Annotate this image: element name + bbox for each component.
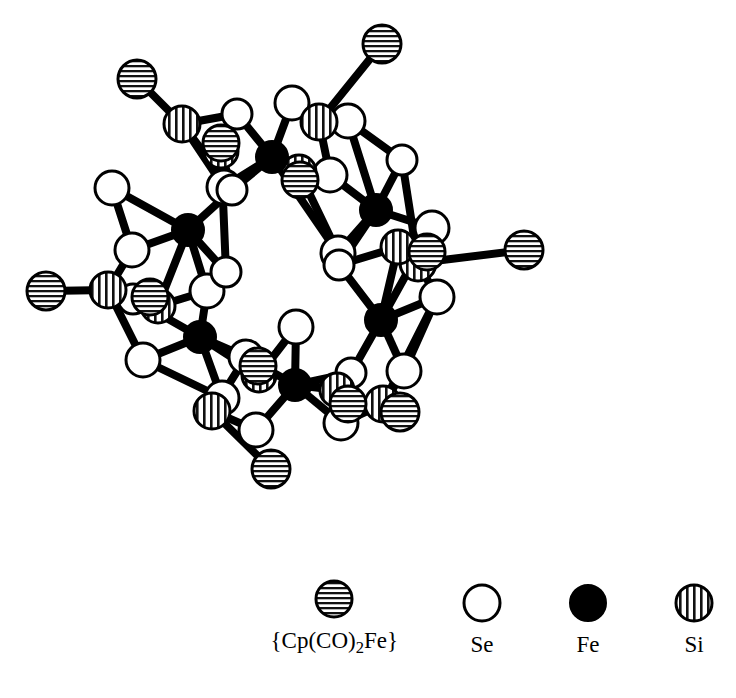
legend-label-si: Si [684, 633, 703, 656]
atom-cpco2fe [132, 279, 168, 315]
atom-se [420, 280, 454, 314]
filled-circle-icon [566, 579, 610, 627]
molecular-structure-figure: {Cp(CO)2Fe}SeFeSi [0, 0, 736, 698]
open-circle-icon [460, 579, 504, 627]
legend-label-se: Se [471, 633, 494, 656]
molecule-canvas [0, 0, 736, 576]
legend-item-fe: Fe [566, 579, 610, 656]
atom-cpco2fe [27, 272, 65, 310]
vertical-striped-circle-icon [672, 579, 716, 627]
legend-item-cp-co-2-fe: {Cp(CO)2Fe} [271, 575, 398, 656]
atom-si [90, 272, 126, 308]
horizontal-striped-circle-icon [312, 575, 356, 623]
atom-fe [172, 214, 204, 246]
atom-cpco2fe [282, 162, 318, 198]
atom-se [239, 413, 273, 447]
atom-fe [365, 304, 397, 336]
atom-se [324, 250, 354, 280]
atom-si [164, 106, 200, 142]
atom-se [217, 175, 247, 205]
atom-cpco2fe [505, 231, 543, 269]
atom-cpco2fe [252, 450, 290, 488]
atom-fe [256, 141, 288, 173]
atom-cpco2fe [240, 348, 276, 384]
atom-fe [184, 321, 216, 353]
atom-si [194, 393, 230, 429]
legend-label-cp-co-2-fe: {Cp(CO)2Fe} [271, 629, 398, 656]
atom-fe [360, 194, 392, 226]
legend-label-fe: Fe [577, 633, 600, 656]
atom-cpco2fe [409, 234, 445, 270]
legend: {Cp(CO)2Fe}SeFeSi [0, 575, 736, 685]
atom-cpco2fe [381, 393, 419, 431]
atom-se [95, 171, 129, 205]
atom-fe [279, 369, 311, 401]
atom-se [211, 257, 241, 287]
legend-row: {Cp(CO)2Fe}SeFeSi [0, 575, 736, 656]
legend-item-si: Si [672, 579, 716, 656]
atom-se [126, 343, 160, 377]
atom-se [115, 233, 149, 267]
atom-se [387, 145, 417, 175]
atom-si [301, 104, 337, 140]
atom-cpco2fe [363, 25, 401, 63]
atom-cpco2fe [118, 60, 156, 98]
atom-cpco2fe [330, 386, 366, 422]
atom-se [279, 310, 313, 344]
atom-cpco2fe [203, 125, 239, 161]
atom-se [387, 354, 421, 388]
legend-item-se: Se [460, 579, 504, 656]
